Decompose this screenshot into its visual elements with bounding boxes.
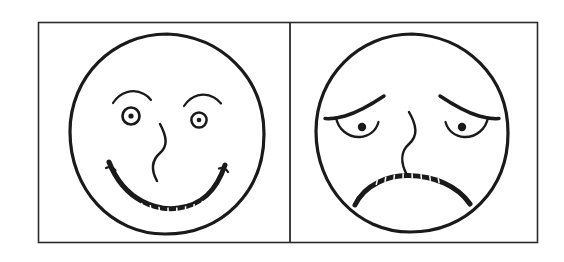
tooth [142, 203, 143, 208]
faces-illustration: Smiling face [0, 0, 564, 262]
tooth [430, 176, 431, 181]
tooth [385, 177, 386, 182]
tooth [394, 175, 395, 180]
sad-left-eye-pupil [358, 123, 366, 131]
happy-left-eye-pupil [128, 113, 133, 118]
happy-right-eye-pupil [197, 118, 202, 123]
tooth [202, 201, 203, 206]
tooth [159, 207, 160, 212]
figure-container: Smiling face [0, 0, 564, 262]
tooth [438, 178, 439, 183]
sad-right-eye-pupil [458, 123, 466, 131]
tooth [150, 205, 151, 210]
